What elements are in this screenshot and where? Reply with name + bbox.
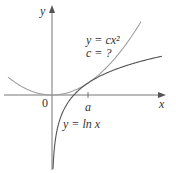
y-axis-label: y bbox=[39, 4, 46, 18]
parabola-curve bbox=[8, 22, 141, 95]
x-axis-label: x bbox=[158, 97, 165, 111]
parabola-equation-text: y = cx² bbox=[85, 33, 120, 47]
ln-equation-label: y = ln x bbox=[62, 117, 101, 131]
parabola-equation-label: y = cx² bbox=[85, 33, 120, 47]
diagram-canvas: y x 0 a y = cx² c = ? y = ln x bbox=[0, 0, 176, 173]
ln-curve bbox=[53, 56, 162, 169]
origin-label: 0 bbox=[42, 96, 48, 110]
y-axis-arrow-icon bbox=[49, 5, 55, 13]
parabola-param-label: c = ? bbox=[86, 46, 111, 60]
tick-a-label: a bbox=[85, 100, 91, 114]
